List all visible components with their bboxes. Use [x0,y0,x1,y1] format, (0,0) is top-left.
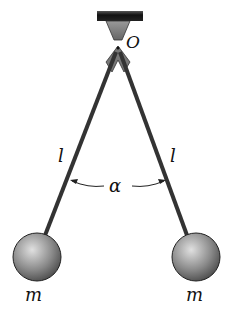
angle-label: α [109,175,121,196]
rod-left [44,52,116,238]
ball-left [13,233,61,281]
ceiling-support [97,11,143,21]
length-label-left: l [58,145,64,166]
rod-right [120,52,188,238]
mass-label-right: m [186,284,203,305]
mass-label-left: m [25,284,42,305]
double-pendulum-diagram: O l l α m m [0,0,236,313]
length-label-right: l [170,145,176,166]
pivot-label: O [126,32,140,52]
ball-right [172,233,220,281]
